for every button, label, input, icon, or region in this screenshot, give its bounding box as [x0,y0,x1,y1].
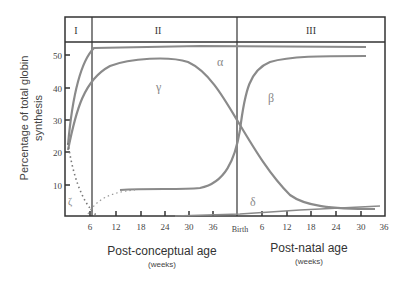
svg-text:30: 30 [357,222,367,232]
svg-text:36: 36 [380,222,390,232]
svg-text:30: 30 [185,222,195,232]
svg-text:24: 24 [332,222,342,232]
phase-label-1: I [74,25,77,36]
delta-curve [175,206,380,216]
y-axis-title-line1: Percentage of total globin [18,56,30,181]
gamma-curve [68,59,375,209]
svg-text:18: 18 [307,222,317,232]
svg-text:12: 12 [112,222,121,232]
x-axis-title-right: Post-natal age [270,241,348,255]
y-tick-labels: 10 20 30 40 50 [53,51,63,191]
globin-chart: I II III 10 20 30 40 50 6 12 18 24 30 36 [0,0,407,282]
beta-early-dotted [88,190,135,214]
series-lines [68,46,380,216]
alpha-label: α [217,55,224,69]
svg-text:6: 6 [260,222,265,232]
delta-label: δ [250,195,256,209]
beta-label: β [268,91,274,105]
svg-text:40: 40 [53,84,63,94]
x-axis-unit-right: (weeks) [295,257,323,266]
svg-text:6: 6 [88,222,93,232]
gamma-label: γ [155,80,162,94]
phase-label-2: II [155,25,162,36]
zeta-label: ζ [68,196,72,208]
svg-text:36: 36 [209,222,219,232]
x-axis-unit-left: (weeks) [148,260,176,269]
beta-curve [120,56,366,190]
x-axis-title-left: Post-conceptual age [107,244,217,258]
svg-text:10: 10 [53,181,63,191]
svg-text:Birth: Birth [232,225,248,234]
phase-label-3: III [306,25,316,36]
x-tick-labels: 6 12 18 24 30 36 Birth 6 12 18 24 30 36 [88,222,389,234]
y-axis-title-line2: synthesis [32,95,44,141]
svg-text:20: 20 [53,148,63,158]
svg-text:50: 50 [53,51,63,61]
svg-text:30: 30 [53,116,63,126]
svg-text:24: 24 [161,222,171,232]
svg-text:12: 12 [283,222,292,232]
svg-text:18: 18 [137,222,147,232]
